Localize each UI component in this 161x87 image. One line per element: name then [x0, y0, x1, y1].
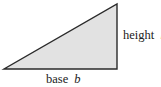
triangle-diagram: height h base b [0, 0, 161, 87]
base-label: base b [46, 72, 81, 86]
base-label-var: b [74, 72, 80, 86]
base-label-word: base [46, 72, 69, 86]
height-label-word: height [123, 28, 155, 42]
height-label: height h [123, 28, 161, 42]
height-label-var: h [160, 28, 161, 42]
right-triangle [4, 4, 117, 69]
